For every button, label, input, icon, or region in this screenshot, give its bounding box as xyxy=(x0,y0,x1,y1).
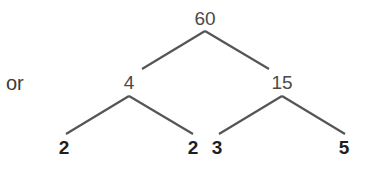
leaf-node-2-right: 2 xyxy=(188,138,199,157)
factor-tree-diagram: or 60 4 15 2 2 3 5 xyxy=(0,0,370,180)
root-node-60: 60 xyxy=(194,9,215,28)
edge-15-to-5 xyxy=(282,96,345,134)
prefix-text-or: or xyxy=(6,73,24,93)
edge-4-to-2-left xyxy=(66,96,129,134)
leaf-node-3: 3 xyxy=(212,138,223,157)
edge-60-to-4 xyxy=(142,31,205,69)
tree-edges xyxy=(0,0,370,180)
edge-60-to-15 xyxy=(205,31,269,69)
node-15: 15 xyxy=(271,73,292,92)
node-4: 4 xyxy=(124,73,135,92)
leaf-node-2-left: 2 xyxy=(59,138,70,157)
edge-4-to-2-right xyxy=(129,96,193,134)
leaf-node-5: 5 xyxy=(339,138,350,157)
edge-15-to-3 xyxy=(219,96,282,134)
